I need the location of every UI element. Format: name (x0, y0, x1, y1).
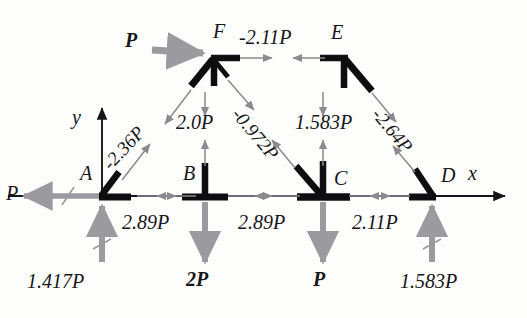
applied-load-P-at-F-label: P (125, 30, 137, 50)
applied-load-2P-at-B-label: 2P (186, 269, 208, 289)
node-label-E: E (331, 22, 343, 42)
node-label-D: D (441, 165, 455, 185)
truss-free-body-diagram: A B C D E F y x 2.89P 2.89P 2.11P -2.11P… (0, 0, 527, 318)
reaction-at-A-label: 1.417P (27, 271, 84, 291)
reaction-at-D-label: 1.583P (400, 271, 457, 291)
reaction-at-A-arrow (93, 206, 111, 262)
node-label-A: A (80, 163, 92, 183)
x-axis-label: x (468, 163, 477, 183)
member-force-EC: 1.583P (295, 112, 352, 132)
joint-D-members (409, 169, 436, 197)
member-force-AB: 2.89P (122, 212, 169, 232)
reaction-at-D-arrow (423, 206, 441, 262)
applied-load-P-at-C-label: P (313, 269, 325, 289)
applied-load-P-at-F-arrow (152, 50, 203, 53)
node-label-C: C (334, 168, 347, 188)
y-axis-label: y (72, 107, 81, 127)
member-force-FB: 2.0P (176, 112, 213, 132)
applied-load-P-at-A-label: P (6, 183, 18, 203)
node-label-B: B (183, 163, 195, 183)
node-label-F: F (213, 21, 225, 41)
member-force-BC: 2.89P (238, 212, 285, 232)
member-force-CD: 2.11P (352, 212, 398, 232)
member-force-FE: -2.11P (239, 27, 291, 47)
joint-F-members (191, 58, 240, 86)
joint-E-members (320, 57, 372, 91)
